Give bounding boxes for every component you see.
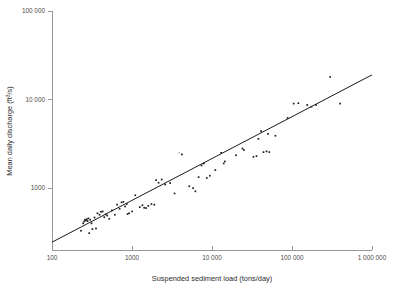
- data-point: [161, 179, 163, 181]
- data-point: [275, 135, 277, 137]
- x-tick-label: 1 000 000: [358, 254, 387, 261]
- data-point: [169, 182, 171, 184]
- data-point: [83, 221, 85, 223]
- y-axis-title: Mean daily discharge (ft3/s): [5, 86, 14, 175]
- data-point: [164, 184, 166, 186]
- x-axis-ticks: 100100010 000100 0001 000 000: [47, 246, 387, 262]
- x-tick-label: 10 000: [202, 254, 222, 261]
- data-point: [214, 169, 216, 171]
- data-point: [99, 214, 101, 216]
- data-point: [145, 207, 147, 209]
- data-point: [97, 212, 99, 214]
- data-point: [111, 210, 113, 212]
- data-point: [124, 206, 126, 208]
- data-point: [127, 213, 129, 215]
- data-point: [192, 187, 194, 189]
- data-point: [106, 215, 108, 217]
- data-point: [147, 205, 149, 207]
- data-point: [293, 103, 295, 105]
- data-point: [235, 154, 237, 156]
- x-axis-title: Suspended sediment load (tons/day): [152, 274, 272, 283]
- scatter-plot-svg: 100100010 000100 0001 000 000 100010 000…: [0, 0, 399, 291]
- data-point: [100, 211, 102, 213]
- data-point: [142, 204, 144, 206]
- data-point: [105, 214, 107, 216]
- data-point: [209, 175, 211, 177]
- data-point: [123, 201, 125, 203]
- data-point: [198, 176, 200, 178]
- data-point: [223, 163, 225, 165]
- data-point: [95, 228, 97, 230]
- data-point: [114, 214, 116, 216]
- data-point: [220, 152, 222, 154]
- data-point: [126, 203, 128, 205]
- y-axis-ticks: 100010 000100 000: [22, 7, 52, 191]
- data-point: [297, 102, 299, 104]
- data-point: [119, 208, 121, 210]
- data-point: [151, 203, 153, 205]
- data-point: [201, 165, 203, 167]
- data-point: [263, 151, 265, 153]
- data-point: [86, 218, 88, 220]
- data-point: [178, 152, 180, 154]
- data-point: [188, 185, 190, 187]
- y-tick-label: 100 000: [22, 7, 46, 14]
- data-point: [80, 230, 82, 232]
- y-axis-title-tail: /s): [5, 86, 14, 94]
- data-point: [103, 216, 105, 218]
- x-tick-label: 100 000: [280, 254, 304, 261]
- data-point: [329, 76, 331, 78]
- data-point: [287, 117, 289, 119]
- data-point: [155, 179, 157, 181]
- data-point: [94, 217, 96, 219]
- data-point: [158, 182, 160, 184]
- y-tick-label: 10 000: [25, 96, 45, 103]
- data-point: [339, 103, 341, 105]
- data-point: [91, 222, 93, 224]
- data-point: [102, 211, 104, 213]
- chart-figure: 100100010 000100 0001 000 000 100010 000…: [0, 0, 399, 291]
- y-tick-label: 1000: [31, 184, 46, 191]
- data-point: [139, 206, 141, 208]
- data-point: [89, 219, 91, 221]
- data-point: [256, 155, 258, 157]
- data-point: [243, 149, 245, 151]
- data-point: [195, 190, 197, 192]
- data-point: [143, 207, 145, 209]
- y-axis-title-group: Mean daily discharge (ft3/s): [5, 86, 14, 175]
- data-point: [224, 161, 226, 163]
- data-point: [121, 202, 123, 204]
- data-point: [206, 177, 208, 179]
- data-point: [268, 151, 270, 153]
- data-point: [128, 212, 130, 214]
- data-point: [181, 154, 183, 156]
- data-point: [134, 194, 136, 196]
- data-point: [311, 106, 313, 108]
- data-point: [253, 156, 255, 158]
- data-point: [92, 228, 94, 230]
- x-tick-label: 1000: [125, 254, 140, 261]
- data-point: [87, 220, 89, 222]
- data-point: [131, 211, 133, 213]
- data-point: [266, 151, 268, 153]
- data-point: [306, 104, 308, 106]
- data-point: [88, 232, 90, 234]
- data-point: [153, 204, 155, 206]
- y-axis-title-base: Mean daily discharge (ft: [5, 97, 14, 175]
- data-point: [82, 222, 84, 224]
- regression-line-segment: [52, 75, 372, 242]
- data-point: [258, 138, 260, 140]
- regression-line: [52, 75, 372, 242]
- data-point: [174, 193, 176, 195]
- data-point: [108, 218, 110, 220]
- data-point: [116, 204, 118, 206]
- data-point: [315, 104, 317, 106]
- data-point: [267, 133, 269, 135]
- data-point: [260, 130, 262, 132]
- data-points: [80, 76, 341, 234]
- data-point: [203, 163, 205, 165]
- data-point: [88, 218, 90, 220]
- x-tick-label: 100: [47, 254, 58, 261]
